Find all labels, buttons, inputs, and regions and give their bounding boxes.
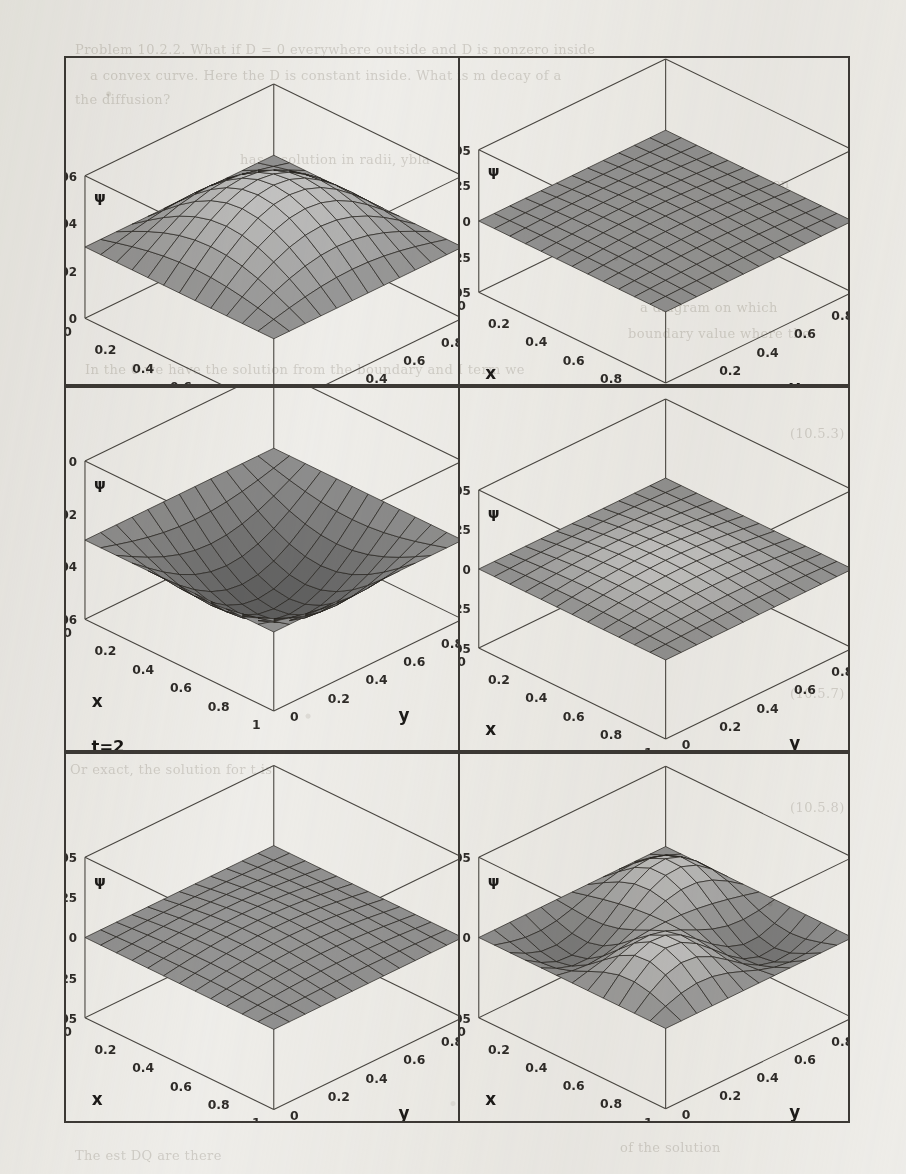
z-tick-label: 0 xyxy=(463,931,471,945)
x-tick-label: 1 xyxy=(644,746,653,750)
z-tick-label: 0.025 xyxy=(460,179,471,193)
x-tick-label: 0.2 xyxy=(94,344,116,358)
x-axis-label: x xyxy=(485,719,496,739)
ghost-text-line: of the solution xyxy=(620,1140,721,1155)
y-tick-label: 0.6 xyxy=(794,683,816,697)
z-tick-label: 0 xyxy=(69,312,77,326)
x-axis-label: x xyxy=(92,691,103,711)
surface-panel-t1: 00.20.40.60.8110.80.60.40.200.050.0250-0… xyxy=(459,56,850,386)
y-tick-label: 0.8 xyxy=(831,665,848,679)
z-tick-label: 0.025 xyxy=(460,523,471,537)
x-tick-label: 1 xyxy=(252,718,261,732)
z-tick-label: 0 xyxy=(69,455,77,469)
z-tick-label: 0.02 xyxy=(66,265,77,279)
x-tick-label: 0.6 xyxy=(563,354,585,368)
x-tick-label: 0.4 xyxy=(132,663,154,677)
z-tick-label: -0.005 xyxy=(460,1012,471,1026)
y-tick-label: 0.2 xyxy=(719,1089,741,1103)
x-tick-label: 0.4 xyxy=(525,691,547,705)
y-tick-label: 0.6 xyxy=(794,328,816,342)
y-tick-label: 0.4 xyxy=(366,372,388,384)
x-tick-label: 0.8 xyxy=(208,1098,230,1112)
y-tick-label: 0.4 xyxy=(757,346,779,360)
y-tick-label: 0.4 xyxy=(757,702,779,716)
x-tick-label: 0.6 xyxy=(170,681,192,695)
x-tick-label: 0.6 xyxy=(563,710,585,724)
x-tick-label: 0.2 xyxy=(488,673,510,687)
y-tick-label: 0.2 xyxy=(328,1090,350,1104)
y-axis-label: y xyxy=(399,1103,410,1121)
z-tick-label: 0.05 xyxy=(66,851,77,865)
z-tick-label: 0.05 xyxy=(460,144,471,158)
surface-plot-t2: 00.20.40.60.8110.80.60.40.200-0.02-0.04-… xyxy=(66,388,458,750)
x-tick-label: 0 xyxy=(66,626,72,640)
z-tick-label: -0.025 xyxy=(460,603,471,617)
x-tick-label: 0 xyxy=(66,325,72,339)
x-tick-label: 0.4 xyxy=(525,335,547,349)
y-axis-label: y xyxy=(399,705,410,725)
x-tick-label: 0.2 xyxy=(488,1043,510,1057)
x-tick-label: 1 xyxy=(252,1117,261,1121)
time-label: t=2 xyxy=(92,737,125,750)
z-tick-label: 0.04 xyxy=(66,217,77,231)
z-tick-label: -0.05 xyxy=(460,642,471,656)
x-tick-label: 1 xyxy=(644,1116,653,1121)
y-axis-label: y xyxy=(789,1102,800,1121)
x-tick-label: 0.4 xyxy=(525,1061,547,1075)
surface-panel-t0: 00.20.40.60.8110.80.60.40.200.060.040.02… xyxy=(64,56,459,386)
z-tick-label: -0.06 xyxy=(66,613,77,627)
x-tick-label: 0.8 xyxy=(208,700,230,714)
z-tick-label: 0.05 xyxy=(460,484,471,498)
x-axis-label: x xyxy=(92,1089,103,1109)
surface-panel-t2: 00.20.40.60.8110.80.60.40.200-0.02-0.04-… xyxy=(64,386,459,752)
z-tick-label: 0 xyxy=(463,563,471,577)
y-tick-label: 0.2 xyxy=(719,364,741,378)
figure-panel-grid: 00.20.40.60.8110.80.60.40.200.060.040.02… xyxy=(64,56,850,1123)
x-tick-label: 0.8 xyxy=(600,728,622,742)
x-axis-label: x xyxy=(485,363,496,383)
y-tick-label: 0.6 xyxy=(794,1053,816,1067)
x-tick-label: 0 xyxy=(66,1025,72,1039)
y-tick-label: 0.4 xyxy=(757,1071,779,1085)
y-tick-label: 0.2 xyxy=(328,692,350,706)
x-tick-label: 0.6 xyxy=(170,1080,192,1094)
z-axis-label: ψ xyxy=(94,475,106,493)
z-tick-label: -0.04 xyxy=(66,560,77,574)
x-tick-label: 0.8 xyxy=(600,372,622,384)
z-axis-label: ψ xyxy=(488,504,500,522)
z-tick-label: 0.025 xyxy=(66,891,77,905)
x-tick-label: 0.8 xyxy=(600,1097,622,1111)
y-tick-label: 0.8 xyxy=(831,309,848,323)
y-tick-label: 0.2 xyxy=(719,720,741,734)
surface-plot-t6: 00.20.40.60.8110.80.60.40.200.0050-0.005… xyxy=(460,754,848,1121)
y-axis-label: y xyxy=(789,377,800,384)
z-tick-label: -0.05 xyxy=(66,1012,77,1026)
y-tick-label: 0.4 xyxy=(366,673,388,687)
surface-panel-t6: 00.20.40.60.8110.80.60.40.200.0050-0.005… xyxy=(459,752,850,1123)
z-tick-label: -0.05 xyxy=(460,286,471,300)
ghost-text-line: Problem 10.2.2. What if D = 0 everywhere… xyxy=(75,42,595,57)
y-tick-label: 0.6 xyxy=(403,354,425,368)
z-axis-label: ψ xyxy=(488,162,500,180)
surface-plot-t3: 00.20.40.60.8110.80.60.40.200.050.0250-0… xyxy=(460,388,848,750)
y-tick-label: 0.6 xyxy=(403,655,425,669)
y-tick-label: 0.8 xyxy=(441,336,458,350)
y-tick-label: 0 xyxy=(682,382,691,384)
x-tick-label: 0.2 xyxy=(94,645,116,659)
z-tick-label: 0.06 xyxy=(66,170,77,184)
z-tick-label: -0.02 xyxy=(66,508,77,522)
x-axis-label: x xyxy=(485,1089,496,1109)
y-tick-label: 0 xyxy=(290,1109,299,1121)
y-tick-label: 0 xyxy=(290,710,299,724)
z-axis-label: ψ xyxy=(488,872,500,890)
x-tick-label: 0.4 xyxy=(132,1061,154,1075)
y-tick-label: 0 xyxy=(682,1108,691,1121)
surface-panel-t4: 00.20.40.60.8110.80.60.40.200.050.0250-0… xyxy=(64,752,459,1123)
surface-plot-t1: 00.20.40.60.8110.80.60.40.200.050.0250-0… xyxy=(460,58,848,384)
surface-plot-t0: 00.20.40.60.8110.80.60.40.200.060.040.02… xyxy=(66,58,458,384)
z-tick-label: 0.005 xyxy=(460,851,471,865)
x-tick-label: 0 xyxy=(460,299,466,313)
x-tick-label: 0 xyxy=(460,1025,466,1039)
x-tick-label: 0.6 xyxy=(170,380,192,384)
z-tick-label: -0.025 xyxy=(66,972,77,986)
